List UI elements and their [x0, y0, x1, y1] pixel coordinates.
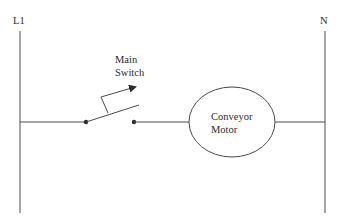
- switch-actuator-arrow-icon: [101, 87, 135, 113]
- ladder-diagram: L1 N Main Switch Conveyor Motor: [0, 0, 343, 224]
- motor-label-line2: Motor: [211, 124, 238, 135]
- switch-label-line2: Switch: [115, 67, 145, 78]
- motor-load-symbol: [189, 87, 275, 157]
- switch-blade: [86, 105, 139, 122]
- switch-label-line1: Main: [115, 54, 138, 65]
- left-rail-label: L1: [13, 15, 25, 26]
- right-rail-label: N: [320, 15, 328, 26]
- motor-label-line1: Conveyor: [211, 111, 253, 122]
